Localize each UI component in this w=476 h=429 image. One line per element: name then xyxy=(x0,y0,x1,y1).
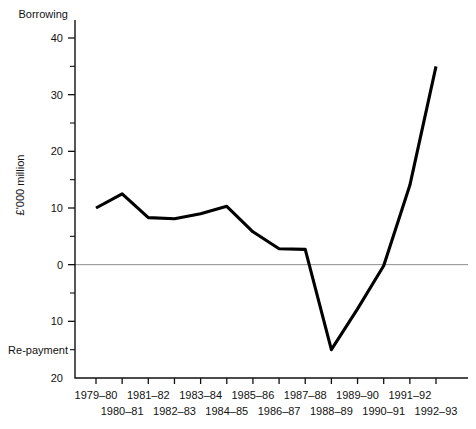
x-tick-label: 1984–85 xyxy=(205,405,248,417)
x-tick-label: 1990–91 xyxy=(362,405,405,417)
x-tick-label: 1992–93 xyxy=(415,405,458,417)
y-tick-label: 20 xyxy=(51,145,63,157)
chart-canvas: 4030201001020 1979–801980–811981–821982–… xyxy=(0,0,476,429)
y-tick-label: 10 xyxy=(51,315,63,327)
x-tick-label: 1989–90 xyxy=(336,389,379,401)
repayment-region-label: Re-payment xyxy=(8,344,68,356)
x-axis-ticks xyxy=(96,378,436,384)
y-axis-title: £'000 million xyxy=(14,155,26,216)
y-tick-label: 20 xyxy=(51,372,63,384)
y-tick-label: 40 xyxy=(51,32,63,44)
borrowing-region-label: Borrowing xyxy=(18,8,68,20)
x-tick-label: 1988–89 xyxy=(310,405,353,417)
y-tick-label: 30 xyxy=(51,89,63,101)
x-axis-tick-labels: 1979–801980–811981–821982–831983–841984–… xyxy=(75,389,458,417)
x-tick-label: 1985–86 xyxy=(232,389,275,401)
x-tick-label: 1981–82 xyxy=(127,389,170,401)
x-tick-label: 1986–87 xyxy=(258,405,301,417)
x-tick-label: 1982–83 xyxy=(153,405,196,417)
x-tick-label: 1987–88 xyxy=(284,389,327,401)
x-tick-label: 1980–81 xyxy=(101,405,144,417)
axis-lines xyxy=(75,20,468,378)
borrowing-repayment-chart: 4030201001020 1979–801980–811981–821982–… xyxy=(0,0,476,429)
x-tick-label: 1979–80 xyxy=(75,389,118,401)
data-series-line xyxy=(96,66,436,349)
y-tick-label: 10 xyxy=(51,202,63,214)
y-tick-label: 0 xyxy=(57,259,63,271)
y-axis-tick-labels: 4030201001020 xyxy=(51,32,63,384)
x-tick-label: 1983–84 xyxy=(179,389,222,401)
x-tick-label: 1991–92 xyxy=(388,389,431,401)
y-axis-ticks xyxy=(68,38,75,350)
